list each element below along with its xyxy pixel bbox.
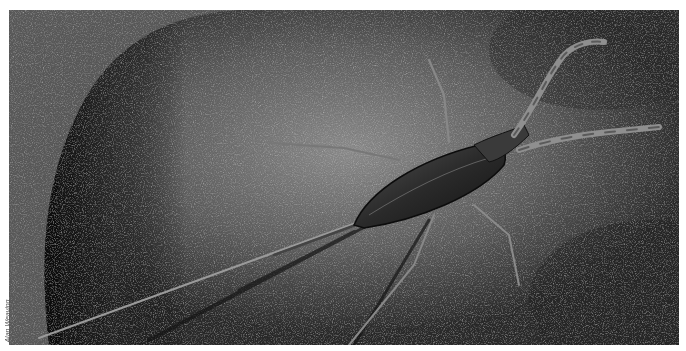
insect-on-rock-image [9, 10, 679, 345]
photo-credit: Alan Weaving [3, 291, 13, 351]
photograph [9, 10, 679, 345]
